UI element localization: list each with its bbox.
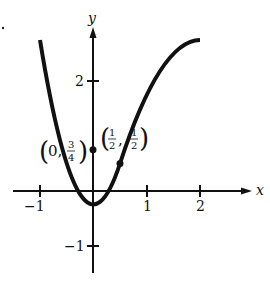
parabola-chart: y 2 −1 x −1 1 2 ( 0, 3 4 ) ( 1 2 , 1	[0, 0, 270, 281]
y-axis-label: y	[87, 10, 97, 26]
label-vertex-x-num: 1	[109, 127, 115, 138]
label-vertex-y-den: 2	[131, 140, 137, 151]
parabola-curve	[40, 40, 200, 204]
label-y-intercept-num: 3	[68, 139, 74, 150]
point-y-intercept	[90, 146, 97, 153]
label-vertex-y-num: 1	[131, 127, 137, 138]
y-tick-label-neg1: −1	[64, 238, 85, 254]
x-tick-label-neg1: −1	[24, 198, 45, 214]
label-y-intercept-den: 4	[68, 152, 74, 163]
x-tick-label-2: 2	[196, 198, 205, 214]
y-tick-label-2: 2	[75, 73, 84, 89]
y-axis-arrow-icon	[90, 27, 97, 38]
x-axis-label: x	[256, 182, 264, 198]
point-vertex	[117, 160, 124, 167]
label-vertex-x-den: 2	[109, 140, 115, 151]
stray-mark	[2, 27, 4, 29]
svg-text:,: ,	[118, 131, 123, 149]
label-y-intercept-x: 0,	[48, 142, 62, 160]
paren-close: )	[78, 136, 88, 166]
x-axis: x −1 1 2	[13, 182, 264, 214]
x-tick-label-1: 1	[143, 198, 152, 214]
paren-close: )	[139, 123, 149, 153]
x-axis-arrow-icon	[241, 188, 252, 195]
